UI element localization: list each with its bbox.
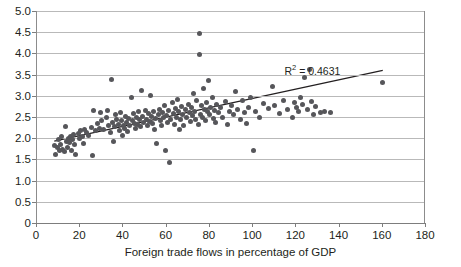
data-point xyxy=(120,133,125,138)
gridline xyxy=(37,159,424,160)
x-axis-tick-label: 120 xyxy=(275,229,315,241)
data-point xyxy=(305,107,310,112)
x-axis-title: Foreign trade flows in percentage of GDP xyxy=(0,246,461,258)
x-axis-tick-mark xyxy=(252,223,253,227)
data-point xyxy=(192,109,197,114)
y-axis-tick-mark xyxy=(32,117,36,118)
y-axis-tick-label: 2.0 xyxy=(0,132,31,144)
y-axis-tick-label: 1.0 xyxy=(0,175,31,187)
y-axis-tick-mark xyxy=(32,202,36,203)
data-point xyxy=(290,115,295,120)
x-axis-tick-mark xyxy=(209,223,210,227)
x-axis-tick-label: 0 xyxy=(16,229,56,241)
x-axis-tick-label: 160 xyxy=(362,229,402,241)
plot-area xyxy=(36,11,425,223)
x-axis-tick-mark xyxy=(295,223,296,227)
data-point xyxy=(292,100,297,105)
x-axis-tick-label: 100 xyxy=(232,229,272,241)
y-axis-tick-label: 5.0 xyxy=(0,5,31,17)
r-squared-annotation: R2 = 0.4631 xyxy=(285,63,341,77)
data-point xyxy=(105,108,110,113)
data-point xyxy=(118,110,123,115)
x-axis-tick-mark xyxy=(166,223,167,227)
data-point xyxy=(172,122,177,127)
data-point xyxy=(91,108,96,113)
data-point xyxy=(109,77,114,82)
y-axis-tick-label: 0.5 xyxy=(0,196,31,208)
x-axis-tick-label: 40 xyxy=(102,229,142,241)
x-axis-tick-mark xyxy=(425,223,426,227)
gridline xyxy=(37,96,424,97)
x-axis-tick-label: 80 xyxy=(189,229,229,241)
data-point xyxy=(277,111,282,116)
gridline xyxy=(37,202,424,203)
y-axis-tick-label: 2.5 xyxy=(0,111,31,123)
scatter-chart-figure: Foreign trade flows in percentage of GDP… xyxy=(0,0,461,267)
data-point xyxy=(281,98,286,103)
data-point xyxy=(251,148,256,153)
data-point xyxy=(81,141,86,146)
data-point xyxy=(90,153,95,158)
data-point xyxy=(196,122,201,127)
y-axis-tick-label: 0 xyxy=(0,217,31,229)
data-point xyxy=(170,100,175,105)
data-point xyxy=(238,117,243,122)
data-point xyxy=(223,99,228,104)
data-point xyxy=(63,124,68,129)
data-point xyxy=(203,118,208,123)
data-point xyxy=(193,117,198,122)
y-axis-tick-mark xyxy=(32,53,36,54)
y-axis-tick-label: 3.0 xyxy=(0,90,31,102)
data-point xyxy=(58,142,63,147)
gridline xyxy=(37,32,424,33)
data-point xyxy=(220,115,225,120)
x-axis-line xyxy=(36,223,425,224)
x-axis-tick-mark xyxy=(36,223,37,227)
data-point xyxy=(296,109,301,114)
y-axis-tick-label: 4.0 xyxy=(0,47,31,59)
y-axis-tick-label: 1.5 xyxy=(0,153,31,165)
data-point xyxy=(159,123,164,128)
data-point xyxy=(225,122,230,127)
gridline xyxy=(37,181,424,182)
data-point xyxy=(62,149,67,154)
data-point xyxy=(201,86,206,91)
data-point xyxy=(197,52,202,57)
x-axis-tick-label: 180 xyxy=(405,229,445,241)
x-axis-tick-mark xyxy=(339,223,340,227)
data-point xyxy=(229,103,234,108)
y-axis-tick-mark xyxy=(32,96,36,97)
y-axis-tick-mark xyxy=(32,159,36,160)
gridline xyxy=(37,117,424,118)
data-point xyxy=(213,120,218,125)
data-point xyxy=(257,115,262,120)
y-axis-tick-label: 4.5 xyxy=(0,26,31,38)
data-point xyxy=(72,142,77,147)
gridline xyxy=(37,53,424,54)
data-point xyxy=(197,31,202,36)
data-point xyxy=(150,121,155,126)
x-axis-tick-mark xyxy=(382,223,383,227)
r-squared-symbol: R xyxy=(285,64,293,76)
x-axis-tick-label: 20 xyxy=(59,229,99,241)
data-point xyxy=(70,137,75,142)
x-axis-tick-mark xyxy=(122,223,123,227)
data-point xyxy=(111,139,116,144)
y-axis-tick-mark xyxy=(32,75,36,76)
y-axis-tick-mark xyxy=(32,181,36,182)
x-axis-tick-label: 140 xyxy=(319,229,359,241)
y-axis-tick-label: 3.5 xyxy=(0,69,31,81)
r-squared-value: = 0.4631 xyxy=(296,64,340,76)
y-axis-tick-mark xyxy=(32,11,36,12)
x-axis-tick-label: 60 xyxy=(146,229,186,241)
y-axis-tick-mark xyxy=(32,138,36,139)
data-point xyxy=(129,95,134,100)
y-axis-tick-mark xyxy=(32,32,36,33)
x-axis-tick-mark xyxy=(79,223,80,227)
gridline xyxy=(37,11,424,12)
gridline xyxy=(37,75,424,76)
data-point xyxy=(117,128,122,133)
gridline xyxy=(37,138,424,139)
